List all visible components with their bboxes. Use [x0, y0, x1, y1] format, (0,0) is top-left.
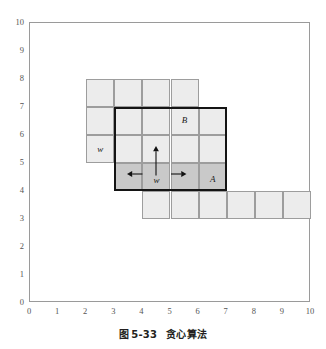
figure-container: BwwA 012345678910 012345678910 图5-33贪心算法: [0, 0, 326, 349]
x-tick-label: 0: [27, 307, 31, 316]
y-tick-label: 1: [6, 270, 24, 279]
grid-cell: [114, 79, 142, 107]
grid-cell: [142, 79, 170, 107]
cell-label-w: w: [97, 145, 103, 154]
y-tick-label: 10: [6, 18, 24, 27]
x-tick-label: 7: [224, 307, 228, 316]
arrow-right-icon: [163, 166, 194, 182]
grid-cell: [86, 107, 114, 135]
arrow-left-icon: [119, 166, 150, 182]
plot-area: BwwA: [29, 22, 310, 302]
grid-cell: [171, 79, 199, 107]
x-tick-label: 1: [55, 307, 59, 316]
caption-number: 5-33: [131, 329, 157, 340]
x-tick-label: 8: [252, 307, 256, 316]
x-tick-label: 2: [83, 307, 87, 316]
x-tick-label: 9: [280, 307, 284, 316]
cell-label-w: w: [153, 176, 159, 185]
grid-cell: [227, 191, 255, 219]
grid-cell: [171, 191, 199, 219]
y-tick-label: 3: [6, 214, 24, 223]
grid-cell: [86, 79, 114, 107]
grid-cell: [142, 191, 170, 219]
x-tick-label: 3: [111, 307, 115, 316]
figure-caption: 图5-33贪心算法: [0, 326, 326, 341]
caption-prefix: 图: [119, 329, 129, 340]
y-tick-label: 8: [6, 74, 24, 83]
x-tick-label: 6: [195, 307, 199, 316]
x-tick-label: 5: [167, 307, 171, 316]
caption-title: 贪心算法: [166, 329, 207, 340]
y-tick-label: 2: [6, 242, 24, 251]
y-tick-label: 5: [6, 158, 24, 167]
y-tick-label: 4: [6, 186, 24, 195]
x-tick-label: 4: [139, 307, 143, 316]
cell-label-a: A: [210, 175, 216, 184]
grid-cell: [199, 191, 227, 219]
coordinate-surface: BwwA: [30, 23, 309, 301]
grid-cell: [255, 191, 283, 219]
y-tick-label: 9: [6, 46, 24, 55]
cell-label-b: B: [182, 115, 188, 124]
grid-cell: [283, 191, 311, 219]
x-tick-label: 10: [306, 307, 315, 316]
y-tick-label: 7: [6, 102, 24, 111]
y-tick-label: 0: [6, 298, 24, 307]
y-tick-label: 6: [6, 130, 24, 139]
